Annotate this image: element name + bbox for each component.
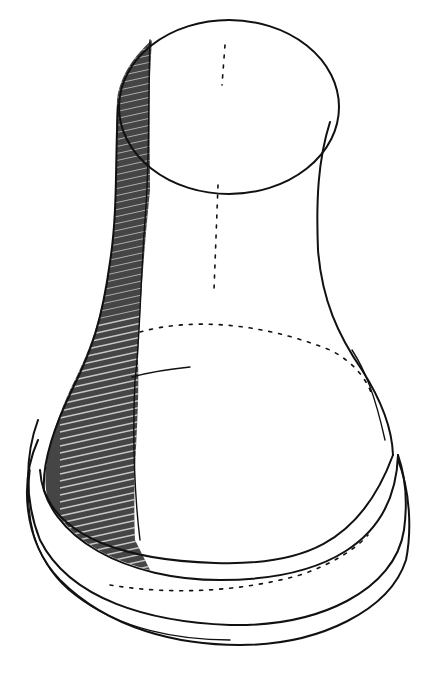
inner-tick-line [132, 367, 190, 377]
right-silhouette [317, 122, 393, 455]
center-dash-line [214, 45, 225, 290]
top-opening-ellipse [119, 20, 339, 194]
mid-dotted-ring [140, 324, 372, 395]
tower-drawing [0, 0, 438, 677]
